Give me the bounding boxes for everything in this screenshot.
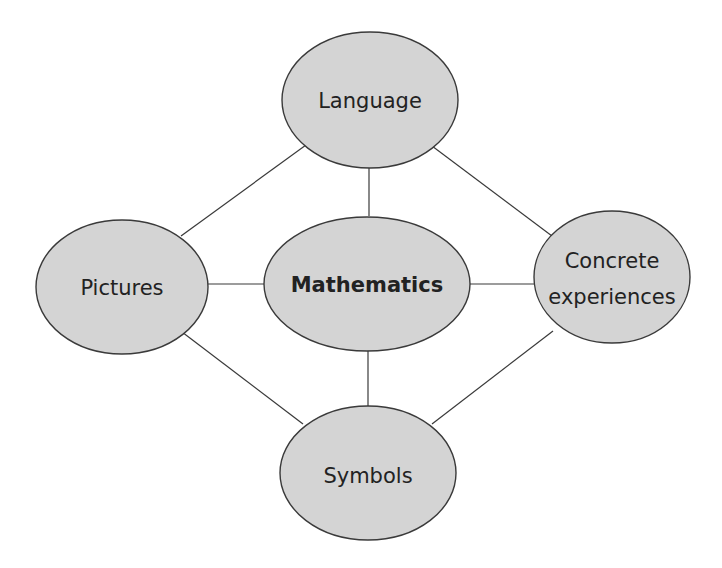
node-symbols: Symbols — [280, 406, 456, 540]
node-label-symbols: Symbols — [323, 464, 412, 488]
node-label-mathematics: Mathematics — [291, 273, 444, 297]
edge-language-concrete — [432, 146, 552, 236]
edge-concrete-symbols — [432, 331, 553, 424]
node-label-concrete-line2: experiences — [548, 285, 675, 309]
node-mathematics: Mathematics — [264, 217, 470, 351]
node-label-pictures: Pictures — [80, 276, 163, 300]
node-pictures: Pictures — [36, 220, 208, 354]
node-language: Language — [282, 32, 458, 168]
node-label-language: Language — [318, 89, 422, 113]
concept-diagram: Language Pictures Mathematics Concrete e… — [0, 0, 722, 568]
node-concrete-experiences: Concrete experiences — [534, 211, 690, 343]
edge-language-pictures — [181, 145, 306, 236]
node-label-concrete-line1: Concrete — [565, 249, 660, 273]
edge-pictures-symbols — [182, 332, 303, 424]
